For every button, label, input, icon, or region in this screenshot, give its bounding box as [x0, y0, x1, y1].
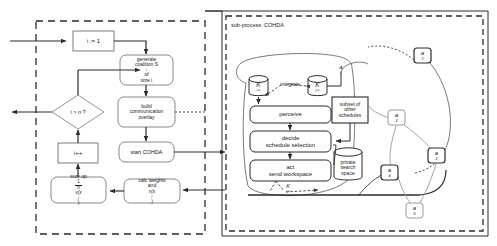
node-init[interactable]: [73, 31, 114, 51]
node-start-cohda[interactable]: [119, 142, 174, 162]
agent-node-a5: [406, 203, 423, 218]
node-increment[interactable]: [58, 143, 98, 163]
agent-node-a2: [428, 148, 445, 163]
node-knowledge-in[interactable]: [249, 76, 268, 96]
node-decide[interactable]: [250, 131, 331, 152]
agent-node-a4: [381, 165, 398, 180]
node-perceive[interactable]: [250, 106, 331, 123]
node-decision[interactable]: [52, 95, 104, 129]
node-calc-weights[interactable]: [124, 179, 180, 203]
agent-node-a3: [388, 110, 405, 125]
agent-node-a1: [414, 48, 431, 63]
node-build-overlay[interactable]: [118, 97, 175, 127]
diagram-vector-layer: [0, 0, 497, 246]
node-private-search-space[interactable]: [333, 145, 362, 180]
node-sum-up[interactable]: [51, 177, 106, 203]
diagram-canvas: i := 1 generate coalition Si of size i b…: [0, 0, 497, 246]
edge-act-to-emit: [270, 181, 318, 192]
edge-integrate: [265, 84, 306, 96]
edge-init-to-generate: [114, 41, 146, 54]
node-subset-schedules[interactable]: [332, 97, 368, 141]
agent-network-edges: [358, 46, 450, 205]
edge-agentj-link: [327, 62, 368, 86]
node-knowledge-out[interactable]: [308, 76, 327, 96]
agent-nodes: [381, 48, 445, 218]
node-act[interactable]: [250, 160, 331, 181]
